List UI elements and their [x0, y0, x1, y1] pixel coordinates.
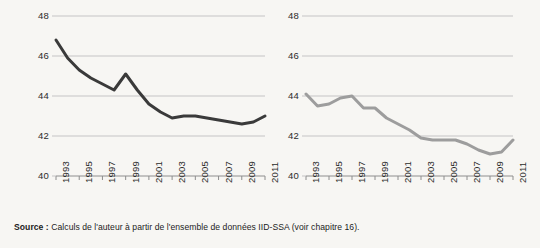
x-tick-label-1995: 1995 — [333, 161, 344, 183]
x-tick-label-1995: 1995 — [83, 161, 94, 183]
y-tick-label-44: 44 — [25, 90, 49, 101]
y-tick-label-40: 40 — [275, 170, 299, 181]
x-tick-label-2001: 2001 — [153, 161, 164, 183]
source-label: Source : — [14, 222, 49, 232]
chart-panel-right: 4042444648199319951997199920012003200520… — [270, 0, 540, 215]
x-tick-label-1993: 1993 — [60, 161, 71, 183]
y-tick-label-46: 46 — [25, 50, 49, 61]
x-tick-label-1997: 1997 — [356, 161, 367, 183]
y-tick-label-48: 48 — [275, 10, 299, 21]
x-tick-label-2007: 2007 — [471, 161, 482, 183]
y-tick-label-42: 42 — [275, 130, 299, 141]
chart-panels: 4042444648199319951997199920012003200520… — [0, 0, 540, 215]
x-tick-label-2005: 2005 — [199, 161, 210, 183]
x-tick-label-2009: 2009 — [246, 161, 257, 183]
x-tick-label-2005: 2005 — [448, 161, 459, 183]
y-tick-label-40: 40 — [25, 170, 49, 181]
x-tick-label-2003: 2003 — [425, 161, 436, 183]
x-tick-label-1997: 1997 — [106, 161, 117, 183]
y-tick-label-48: 48 — [25, 10, 49, 21]
data-line — [306, 94, 513, 154]
source-caption: Source : Calculs de l'auteur à partir de… — [14, 222, 360, 232]
chart-panel-left: 4042444648199319951997199920012003200520… — [0, 0, 270, 215]
figure-container: 4042444648199319951997199920012003200520… — [0, 0, 540, 248]
x-tick-label-2011: 2011 — [517, 162, 528, 183]
x-tick-label-2003: 2003 — [176, 161, 187, 183]
y-tick-label-46: 46 — [275, 50, 299, 61]
data-line — [56, 40, 265, 124]
x-tick-label-2001: 2001 — [402, 161, 413, 183]
x-tick-label-2009: 2009 — [494, 161, 505, 183]
source-text: Calculs de l'auteur à partir de l'ensemb… — [51, 222, 359, 232]
x-tick-label-1999: 1999 — [130, 161, 141, 183]
x-tick-label-1999: 1999 — [379, 161, 390, 183]
y-tick-label-42: 42 — [25, 130, 49, 141]
y-tick-label-44: 44 — [275, 90, 299, 101]
x-tick-label-1993: 1993 — [310, 161, 321, 183]
x-tick-label-2007: 2007 — [223, 161, 234, 183]
